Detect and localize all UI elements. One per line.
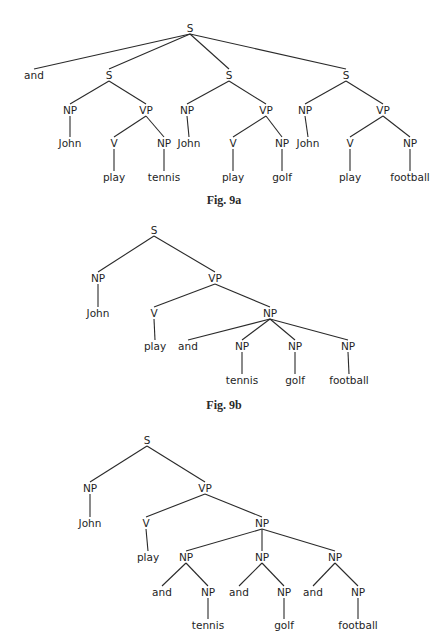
tree-edge (348, 352, 349, 374)
tree-node-play: play (137, 551, 159, 563)
tree-node-np: NP (288, 340, 302, 352)
tree-node-np: NP (91, 272, 105, 284)
tree-edge (187, 81, 229, 104)
tree-node-vp: VP (376, 104, 390, 116)
tree-edge (186, 563, 208, 586)
tree-node-np: NP (63, 104, 77, 116)
tree-edges (98, 236, 349, 374)
tree-edge (346, 81, 383, 104)
tree-node-v: V (150, 307, 158, 319)
tree-node-golf: golf (274, 619, 294, 631)
tree-edge (146, 116, 164, 137)
tree-edge (215, 284, 270, 307)
tree-edge (114, 116, 146, 137)
tree-node-john: John (58, 137, 82, 149)
tree-node-np: NP (255, 551, 269, 563)
tree-node-vp: VP (139, 104, 153, 116)
tree-node-np: NP (235, 340, 249, 352)
tree-node-tennis: tennis (148, 171, 180, 183)
tree-edge (147, 446, 205, 482)
tree-edge (146, 529, 148, 551)
tree-node-football: football (329, 374, 369, 386)
tree-node-np: NP (403, 137, 417, 149)
tree-node-np: NP (201, 586, 215, 598)
tree-node-play: play (339, 171, 361, 183)
tree-node-vp: VP (198, 482, 212, 494)
tree-node-s: S (187, 22, 194, 34)
tree-node-vp: VP (208, 272, 222, 284)
tree-node-golf: golf (272, 171, 292, 183)
tree-node-and: and (178, 340, 198, 352)
tree-edge (186, 529, 262, 551)
tree-edge (146, 494, 205, 517)
tree-edge (233, 116, 266, 137)
tree-edges (34, 34, 410, 171)
figure-9a-tree: SandSSSNPVPJohnVNPplaytennisNPVPJohnVNPp… (24, 22, 430, 207)
tree-node-np: NP (263, 307, 277, 319)
tree-edge (229, 81, 266, 104)
tree-edge (313, 563, 335, 586)
tree-edge (190, 34, 346, 69)
tree-node-golf: golf (285, 374, 305, 386)
tree-node-s: S (144, 434, 151, 446)
tree-node-tennis: tennis (192, 619, 224, 631)
tree-edge (154, 284, 215, 307)
tree-node-np: NP (277, 586, 291, 598)
tree-edge (262, 563, 284, 586)
tree-edge (154, 319, 155, 340)
tree-node-np: NP (341, 340, 355, 352)
figure-9b-tree: SNPVPJohnVNPplayandNPNPNPtennisgolffootb… (86, 224, 369, 412)
tree-node-np: NP (298, 104, 312, 116)
tree-node-np: NP (83, 482, 97, 494)
tree-edge (187, 116, 189, 137)
tree-node-s: S (226, 69, 233, 81)
tree-node-john: John (86, 307, 110, 319)
tree-nodes: SNPVPJohnVNPplayNPNPNPandNPandNPandNPten… (78, 434, 378, 631)
tree-edge (109, 81, 146, 104)
tree-node-and: and (303, 586, 323, 598)
tree-edge (109, 34, 190, 69)
tree-nodes: SandSSSNPVPJohnVNPplaytennisNPVPJohnVNPp… (24, 22, 430, 183)
tree-node-v: V (110, 137, 118, 149)
tree-edge (383, 116, 410, 137)
tree-node-play: play (222, 171, 244, 183)
tree-node-np: NP (275, 137, 289, 149)
tree-edge (205, 494, 262, 517)
tree-edge (188, 319, 270, 340)
tree-edge (350, 116, 383, 137)
tree-node-and: and (229, 586, 249, 598)
tree-edge (34, 34, 190, 69)
tree-node-np: NP (328, 551, 342, 563)
tree-edge (305, 81, 346, 104)
tree-node-football: football (338, 619, 378, 631)
tree-node-vp: VP (259, 104, 273, 116)
tree-node-np: NP (179, 551, 193, 563)
figure-caption: Fig. 9a (207, 193, 242, 207)
tree-edge (154, 236, 215, 272)
tree-edge (190, 34, 229, 69)
tree-edge (305, 116, 308, 137)
tree-node-v: V (346, 137, 354, 149)
tree-nodes: SNPVPJohnVNPplayandNPNPNPtennisgolffootb… (86, 224, 369, 386)
tree-edge (266, 116, 282, 137)
tree-node-and: and (24, 69, 44, 81)
tree-edge (262, 529, 335, 551)
tree-node-tennis: tennis (226, 374, 258, 386)
tree-edge (98, 236, 154, 272)
tree-node-s: S (106, 69, 113, 81)
tree-node-john: John (177, 137, 201, 149)
tree-node-john: John (78, 517, 102, 529)
tree-node-np: NP (255, 517, 269, 529)
tree-node-np: NP (180, 104, 194, 116)
syntax-tree-diagrams: SandSSSNPVPJohnVNPplaytennisNPVPJohnVNPp… (0, 0, 448, 635)
tree-node-and: and (152, 586, 172, 598)
tree-edge (335, 563, 358, 586)
tree-node-s: S (151, 224, 158, 236)
figure-caption: Fig. 9b (206, 398, 242, 412)
tree-node-s: S (343, 69, 350, 81)
tree-node-v: V (142, 517, 150, 529)
tree-edge (162, 563, 186, 586)
figure-9c-tree: SNPVPJohnVNPplayNPNPNPandNPandNPandNPten… (78, 434, 378, 631)
tree-node-play: play (144, 340, 166, 352)
tree-node-john: John (296, 137, 320, 149)
